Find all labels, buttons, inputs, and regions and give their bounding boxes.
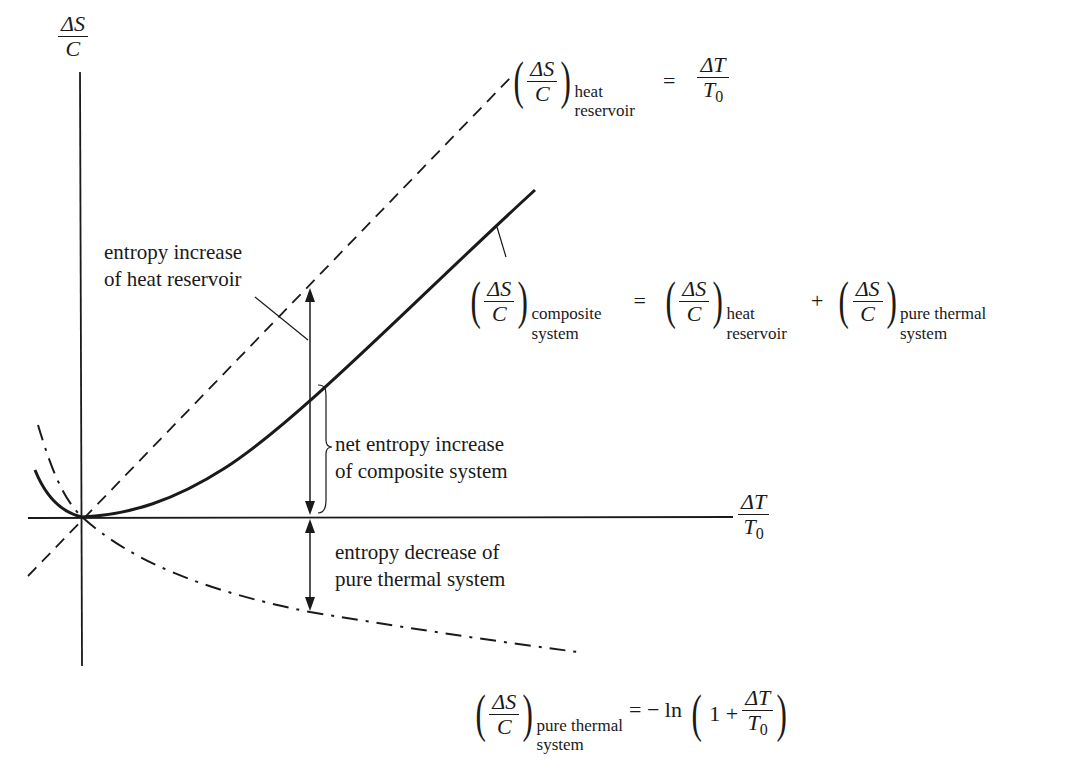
heat-reservoir-increase-label: entropy increase of heat reservoir xyxy=(104,239,242,293)
pure-thermal-equation: ( ΔSC ) pure thermal system = − ln ( 1 +… xyxy=(472,674,791,754)
y-axis-label: ΔS C xyxy=(58,12,88,61)
pure-thermal-decrease-label: entropy decrease of pure thermal system xyxy=(335,539,505,593)
heat-reservoir-equation: ( ΔSC ) heat reservoir = ΔTT0 xyxy=(510,42,729,120)
heat-reservoir-leader xyxy=(255,297,308,340)
net-increase-brace xyxy=(318,385,332,513)
composite-leader xyxy=(497,227,506,257)
composite-equation: ( ΔSC ) composite system = ( ΔSC ) heat … xyxy=(467,258,986,344)
y-axis xyxy=(80,72,82,666)
heat-reservoir-line xyxy=(28,78,510,576)
net-increase-label: net entropy increase of composite system xyxy=(335,431,508,485)
x-axis-label: ΔT T0 xyxy=(738,490,769,546)
x-axis xyxy=(28,517,733,518)
